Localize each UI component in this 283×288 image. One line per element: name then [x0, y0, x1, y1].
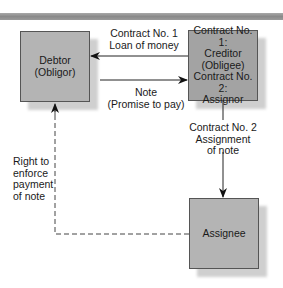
creditor-line-4: Contract No. 2:	[189, 71, 257, 94]
loan-label-line-2: Loan of money	[108, 40, 180, 52]
note-label: Note (Promise to pay)	[98, 87, 194, 110]
assignee-box: Assignee	[189, 198, 259, 269]
assignment-label: Contract No. 2 Assignment of note	[186, 122, 260, 157]
note-label-line-1: Note	[98, 87, 194, 99]
debtor-box: Debtor (Obligor)	[20, 31, 90, 102]
enforce-label-line-3: payment	[13, 179, 53, 191]
enforce-line	[55, 110, 189, 234]
enforce-label-line-1: Right to	[13, 156, 53, 168]
loan-label: Contract No. 1 Loan of money	[108, 28, 180, 51]
assignment-label-line-1: Contract No. 2	[186, 122, 260, 134]
debtor-title: Debtor	[35, 55, 76, 67]
creditor-box: Contract No. 1: Creditor (Obligee) Contr…	[188, 30, 258, 101]
debtor-subtitle: (Obligor)	[35, 67, 76, 79]
note-label-line-2: (Promise to pay)	[98, 99, 194, 111]
loan-label-line-1: Contract No. 1	[108, 28, 180, 40]
enforce-label-line-4: of note	[13, 191, 53, 203]
enforce-label: Right to enforce payment of note	[13, 156, 53, 202]
creditor-line-5: Assignor	[189, 94, 257, 106]
assignee-title: Assignee	[202, 228, 245, 240]
creditor-line-1: Contract No. 1:	[189, 25, 257, 48]
assignment-label-line-3: of note	[186, 145, 260, 157]
